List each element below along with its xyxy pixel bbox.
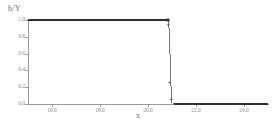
- data-line-segment: [220, 103, 244, 105]
- data-line-segment: [244, 103, 268, 105]
- y-tick-label: 0.2: [18, 84, 25, 90]
- data-line-segment: [174, 103, 196, 105]
- y-tick-label: 0.0: [18, 101, 25, 107]
- y-tick: [25, 70, 28, 71]
- chart-figure: b/Y 1.00.80.60.40.20.016.018.020.022.024…: [0, 0, 276, 126]
- data-line-segment: [28, 19, 52, 21]
- data-line-segment: [52, 19, 76, 21]
- data-line-segment: [76, 19, 100, 21]
- data-point-marker: [168, 27, 171, 30]
- data-line-segment: [148, 19, 162, 21]
- y-tick-label: 0.8: [18, 34, 25, 40]
- y-tick: [25, 54, 28, 55]
- data-line-segment: [124, 19, 148, 21]
- y-tick: [25, 37, 28, 38]
- y-tick-label: 0.4: [18, 68, 25, 74]
- data-point-marker: [171, 102, 174, 105]
- data-line-segment: [196, 103, 220, 105]
- y-tick: [25, 87, 28, 88]
- y-axis-label: b/Y: [8, 5, 21, 13]
- data-line-segment: [100, 19, 124, 21]
- data-line-segment: [169, 28, 170, 53]
- y-tick-label: 1.0: [18, 17, 25, 23]
- y-tick-label: 0.6: [18, 51, 25, 57]
- plot-area: 1.00.80.60.40.20.016.018.020.022.024.0: [28, 20, 268, 104]
- data-point-marker: [169, 84, 172, 87]
- x-axis-label: X: [0, 113, 276, 120]
- y-tick: [25, 104, 28, 105]
